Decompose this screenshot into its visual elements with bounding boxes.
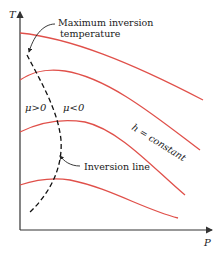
diagram-canvas: T P Maximum inversion temperature μ>0 μ<… [0, 0, 220, 255]
isenthalp-curve-3 [20, 120, 185, 195]
isenthalp-curve-2 [20, 70, 200, 150]
x-axis-label: P [203, 237, 211, 248]
inversion-line-arrow [60, 156, 80, 166]
inversion-line-label: Inversion line [84, 161, 150, 172]
max-inversion-label-line2: temperature [60, 28, 121, 39]
mu-negative-label: μ<0 [63, 102, 85, 113]
h-constant-label: h = constant [130, 121, 188, 163]
mu-positive-label: μ>0 [25, 102, 47, 113]
isenthalp-curve-1 [20, 33, 203, 100]
inversion-line [27, 55, 61, 212]
y-axis-label: T [9, 9, 17, 20]
max-inversion-label-line1: Maximum inversion [58, 17, 153, 28]
isenthalp-curve-4 [20, 179, 178, 218]
